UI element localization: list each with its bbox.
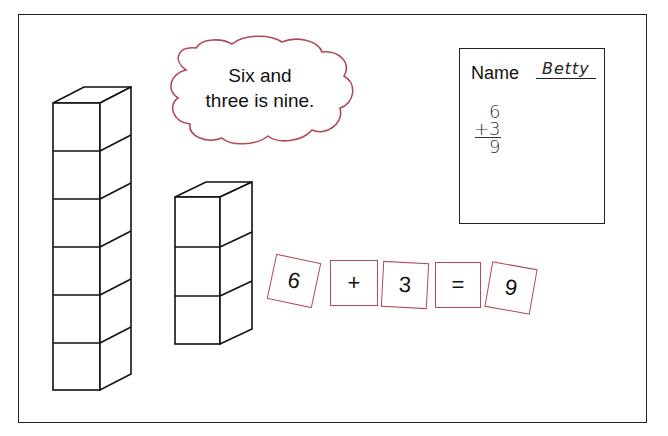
equation-card-3: 3 — [381, 261, 429, 309]
vertical-addition: 6 +3 9 — [474, 103, 501, 155]
sum: 9 — [474, 138, 501, 155]
equation-card-9: 9 — [484, 261, 537, 314]
bubble-line-1: Six and — [180, 63, 340, 88]
equation-card-6: 6 — [267, 254, 322, 309]
tower-six — [53, 87, 131, 390]
name-label: Name — [471, 63, 519, 84]
illustration: Six and three is nine. Name Betty 6 +3 9… — [0, 0, 668, 436]
speech-bubble-text: Six and three is nine. — [180, 63, 340, 113]
equation-card-plus: + — [330, 260, 378, 306]
addend-2: +3 — [474, 120, 501, 137]
worksheet: Name Betty 6 +3 9 — [459, 48, 605, 224]
name-value: Betty — [536, 59, 596, 79]
bubble-line-2: three is nine. — [180, 88, 340, 113]
equation-card-equals: = — [435, 262, 481, 308]
tower-three — [175, 182, 252, 344]
